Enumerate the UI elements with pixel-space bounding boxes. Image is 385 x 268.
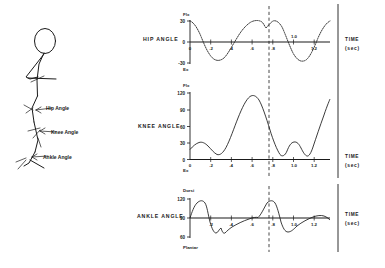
stick-label-hip-angle: Hip Angle bbox=[46, 105, 69, 111]
ankle-angle-marker-2 bbox=[18, 160, 26, 169]
panel-knee-angle: KNEE ANGLE Flx Ex 120 90 60 30 0 0 .2 .4… bbox=[138, 80, 360, 178]
ankle-direction-bottom: Plantar bbox=[183, 245, 198, 250]
knee-direction-top: Flx bbox=[183, 83, 190, 88]
ankle-xtick-12: 1.2 bbox=[311, 222, 318, 227]
hip-xtick-0: 0 bbox=[189, 46, 192, 51]
ankle-ytick-60: 60 bbox=[180, 235, 186, 240]
knee-xtick-0: 0 bbox=[189, 163, 192, 168]
stick-figure-group: Hip Angle Knee Angle Ankle Angle bbox=[16, 29, 79, 170]
knee-xtick-06: .6 bbox=[250, 163, 254, 168]
knee-time-label: TIME bbox=[345, 154, 359, 159]
hip-direction-top: Flx bbox=[183, 12, 190, 17]
panel-label-knee-angle: KNEE ANGLE bbox=[138, 123, 180, 129]
knee-ytick-90: 90 bbox=[180, 108, 186, 113]
stick-figure-foot bbox=[24, 152, 35, 166]
ankle-direction-top: Dorsi bbox=[183, 188, 194, 193]
ankle-time-unit: (sec) bbox=[345, 221, 360, 226]
hip-ytick-0: 0 bbox=[182, 40, 185, 45]
stick-figure-shank bbox=[34, 122, 38, 152]
stick-label-ankle-angle: Ankle Angle bbox=[43, 154, 72, 160]
knee-xtick-02: .2 bbox=[209, 163, 213, 168]
stick-figure-thigh bbox=[32, 96, 38, 122]
hip-ytick-neg30: -30 bbox=[178, 61, 185, 66]
hip-direction-bottom: Ex bbox=[183, 67, 189, 72]
hip-xtick-08: .8 bbox=[271, 46, 275, 51]
knee-xtick-08: .8 bbox=[271, 163, 275, 168]
hip-xtick-10: 1.0 bbox=[291, 34, 298, 39]
ankle-ytick-120: 120 bbox=[177, 197, 185, 202]
knee-angle-marker-3 bbox=[38, 138, 41, 147]
hip-time-unit: (sec) bbox=[345, 46, 360, 51]
stick-figure-foot-sole bbox=[30, 160, 44, 168]
hip-ytick-30: 30 bbox=[180, 19, 186, 24]
knee-direction-bottom: Ex bbox=[183, 168, 189, 173]
knee-xtick-10: 1.0 bbox=[291, 163, 298, 168]
knee-ytick-60: 60 bbox=[180, 125, 186, 130]
stick-figure-trunk bbox=[37, 53, 44, 96]
stick-figure-head bbox=[35, 29, 56, 54]
knee-angle-curve bbox=[190, 96, 330, 157]
stick-label-knee-angle: Knee Angle bbox=[51, 129, 79, 135]
ankle-xtick-08: .8 bbox=[271, 222, 275, 227]
hip-xtick-02: .2 bbox=[209, 46, 213, 51]
ankle-time-label: TIME bbox=[345, 212, 359, 217]
stick-figure-arm bbox=[26, 54, 44, 79]
ankle-xtick-06: .6 bbox=[250, 222, 254, 227]
knee-xtick-12: 1.2 bbox=[311, 163, 318, 168]
gait-kinematics-figure: Hip Angle Knee Angle Ankle Angle HIP ANG… bbox=[0, 0, 385, 268]
hip-time-label: TIME bbox=[345, 37, 359, 42]
knee-ytick-0: 0 bbox=[182, 158, 185, 163]
knee-ytick-30: 30 bbox=[180, 141, 186, 146]
panel-label-hip-angle: HIP ANGLE bbox=[143, 36, 179, 42]
panel-hip-angle: HIP ANGLE Flx Ex 30 0 -30 0 .2 .4 .6 .8 … bbox=[143, 4, 360, 80]
ankle-ytick-90: 90 bbox=[180, 216, 186, 221]
knee-angle-marker-1 bbox=[28, 128, 40, 131]
hip-xtick-06: .6 bbox=[250, 46, 254, 51]
panel-ankle-angle: ANKLE ANGLE Dorsi Plantar 120 90 60 .2 .… bbox=[137, 184, 360, 252]
knee-ytick-120: 120 bbox=[177, 91, 185, 96]
panel-label-ankle-angle: ANKLE ANGLE bbox=[137, 213, 184, 219]
knee-xtick-04: .4 bbox=[229, 163, 233, 168]
figure-canvas: Hip Angle Knee Angle Ankle Angle HIP ANG… bbox=[0, 0, 385, 268]
knee-time-unit: (sec) bbox=[345, 163, 360, 168]
